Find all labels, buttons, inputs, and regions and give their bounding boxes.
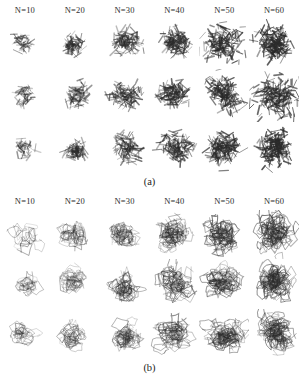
sample-cell-a-row3-n50 [199, 122, 249, 174]
sample-cell-b-row1-n20 [50, 210, 100, 259]
column-header-n10: N=10 [0, 195, 50, 208]
column-header-n20: N=20 [50, 4, 100, 17]
scribble-sample-a-row3-col1 [0, 122, 50, 174]
sample-cell-b-row1-n30 [100, 210, 150, 259]
scribble-sample-b-row1-col6 [249, 210, 299, 259]
column-header-n40: N=40 [149, 4, 199, 17]
scribble-sample-a-row1-col2 [50, 17, 100, 69]
scribble-sample-a-row3-col2 [50, 122, 100, 174]
column-header-n30: N=30 [100, 195, 150, 208]
scribble-sample-a-row2-col4 [149, 69, 199, 121]
panel-b: N=10 N=20 N=30 N=40 N=50 N=60 (b) [0, 191, 299, 377]
scribble-sample-b-row3-col6 [249, 309, 299, 358]
sample-cell-b-row3-n20 [50, 309, 100, 358]
sample-cell-b-row2-n20 [50, 259, 100, 308]
panel-b-caption: (b) [0, 360, 299, 377]
scribble-sample-a-row2-col1 [0, 69, 50, 121]
sample-cell-a-row2-n10 [0, 69, 50, 121]
sample-cell-a-row1-n50 [199, 17, 249, 69]
panel-a: N=10 N=20 N=30 N=40 N=50 N=60 (a) [0, 0, 299, 191]
scribble-sample-a-row2-col2 [50, 69, 100, 121]
scribble-sample-b-row3-col4 [149, 309, 199, 358]
scribble-sample-b-row1-col3 [100, 210, 150, 259]
scribble-sample-a-row1-col1 [0, 17, 50, 69]
panel-b-grid [0, 210, 299, 358]
sample-cell-a-row2-n20 [50, 69, 100, 121]
sample-cell-b-row3-n40 [149, 309, 199, 358]
sample-cell-b-row3-n10 [0, 309, 50, 358]
sample-cell-b-row1-n60 [249, 210, 299, 259]
sample-cell-b-row2-n60 [249, 259, 299, 308]
scribble-sample-a-row1-col5 [199, 17, 249, 69]
panel-a-grid [0, 17, 299, 174]
scribble-sample-b-row2-col4 [149, 259, 199, 308]
sample-cell-b-row2-n40 [149, 259, 199, 308]
scribble-sample-b-row3-col5 [199, 309, 249, 358]
sample-cell-b-row3-n30 [100, 309, 150, 358]
sample-cell-b-row2-n30 [100, 259, 150, 308]
scribble-sample-b-row2-col2 [50, 259, 100, 308]
scribble-sample-b-row2-col5 [199, 259, 249, 308]
column-header-n50: N=50 [199, 4, 249, 17]
scribble-sample-a-row3-col6 [249, 122, 299, 174]
sample-cell-a-row1-n40 [149, 17, 199, 69]
scribble-sample-a-row1-col4 [149, 17, 199, 69]
scribble-sample-a-row2-col3 [100, 69, 150, 121]
sample-cell-b-row1-n10 [0, 210, 50, 259]
sample-cell-b-row2-n50 [199, 259, 249, 308]
sample-cell-b-row3-n50 [199, 309, 249, 358]
sample-cell-a-row1-n10 [0, 17, 50, 69]
scribble-sample-a-row3-col3 [100, 122, 150, 174]
sample-cell-a-row1-n20 [50, 17, 100, 69]
scribble-sample-a-row1-col6 [249, 17, 299, 69]
column-header-n50: N=50 [199, 195, 249, 208]
column-header-n60: N=60 [249, 195, 299, 208]
scribble-sample-b-row1-col1 [0, 210, 50, 259]
sample-cell-a-row1-n30 [100, 17, 150, 69]
scribble-sample-b-row3-col2 [50, 309, 100, 358]
panel-a-caption: (a) [0, 174, 299, 191]
column-header-n40: N=40 [149, 195, 199, 208]
sample-cell-a-row2-n30 [100, 69, 150, 121]
scribble-sample-a-row1-col3 [100, 17, 150, 69]
sample-cell-a-row2-n40 [149, 69, 199, 121]
sample-cell-a-row3-n20 [50, 122, 100, 174]
scribble-sample-a-row3-col4 [149, 122, 199, 174]
scribble-sample-b-row2-col3 [100, 259, 150, 308]
panel-a-header-row: N=10 N=20 N=30 N=40 N=50 N=60 [0, 0, 299, 17]
sample-cell-a-row2-n60 [249, 69, 299, 121]
scribble-sample-b-row1-col2 [50, 210, 100, 259]
sample-cell-b-row1-n40 [149, 210, 199, 259]
sample-cell-a-row3-n40 [149, 122, 199, 174]
sample-cell-a-row3-n10 [0, 122, 50, 174]
sample-cell-b-row3-n60 [249, 309, 299, 358]
sample-cell-b-row2-n10 [0, 259, 50, 308]
scribble-sample-a-row2-col6 [249, 69, 299, 121]
column-header-n20: N=20 [50, 195, 100, 208]
panel-b-header-row: N=10 N=20 N=30 N=40 N=50 N=60 [0, 191, 299, 208]
column-header-n60: N=60 [249, 4, 299, 17]
scribble-sample-a-row2-col5 [199, 69, 249, 121]
sample-cell-a-row1-n60 [249, 17, 299, 69]
scribble-sample-b-row1-col4 [149, 210, 199, 259]
column-header-n10: N=10 [0, 4, 50, 17]
sample-cell-a-row3-n60 [249, 122, 299, 174]
scribble-sample-b-row3-col1 [0, 309, 50, 358]
sample-cell-a-row2-n50 [199, 69, 249, 121]
scribble-sample-b-row1-col5 [199, 210, 249, 259]
scribble-sample-b-row2-col6 [249, 259, 299, 308]
sample-cell-b-row1-n50 [199, 210, 249, 259]
column-header-n30: N=30 [100, 4, 150, 17]
sample-cell-a-row3-n30 [100, 122, 150, 174]
scribble-sample-a-row3-col5 [199, 122, 249, 174]
scribble-sample-b-row3-col3 [100, 309, 150, 358]
scribble-sample-b-row2-col1 [0, 259, 50, 308]
paper-figure: N=10 N=20 N=30 N=40 N=50 N=60 (a) N=10 N… [0, 0, 299, 391]
